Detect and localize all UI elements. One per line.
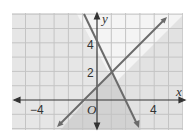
- coordinate-plane: y x 4 2 −4 4 O: [0, 0, 192, 137]
- origin-label: O: [87, 102, 97, 117]
- y-tick-2: 2: [87, 66, 94, 80]
- x-tick-neg4: −4: [30, 103, 44, 117]
- x-axis-label: x: [175, 84, 182, 99]
- x-tick-4: 4: [150, 103, 157, 117]
- y-axis-label: y: [100, 11, 108, 26]
- y-tick-4: 4: [87, 38, 94, 52]
